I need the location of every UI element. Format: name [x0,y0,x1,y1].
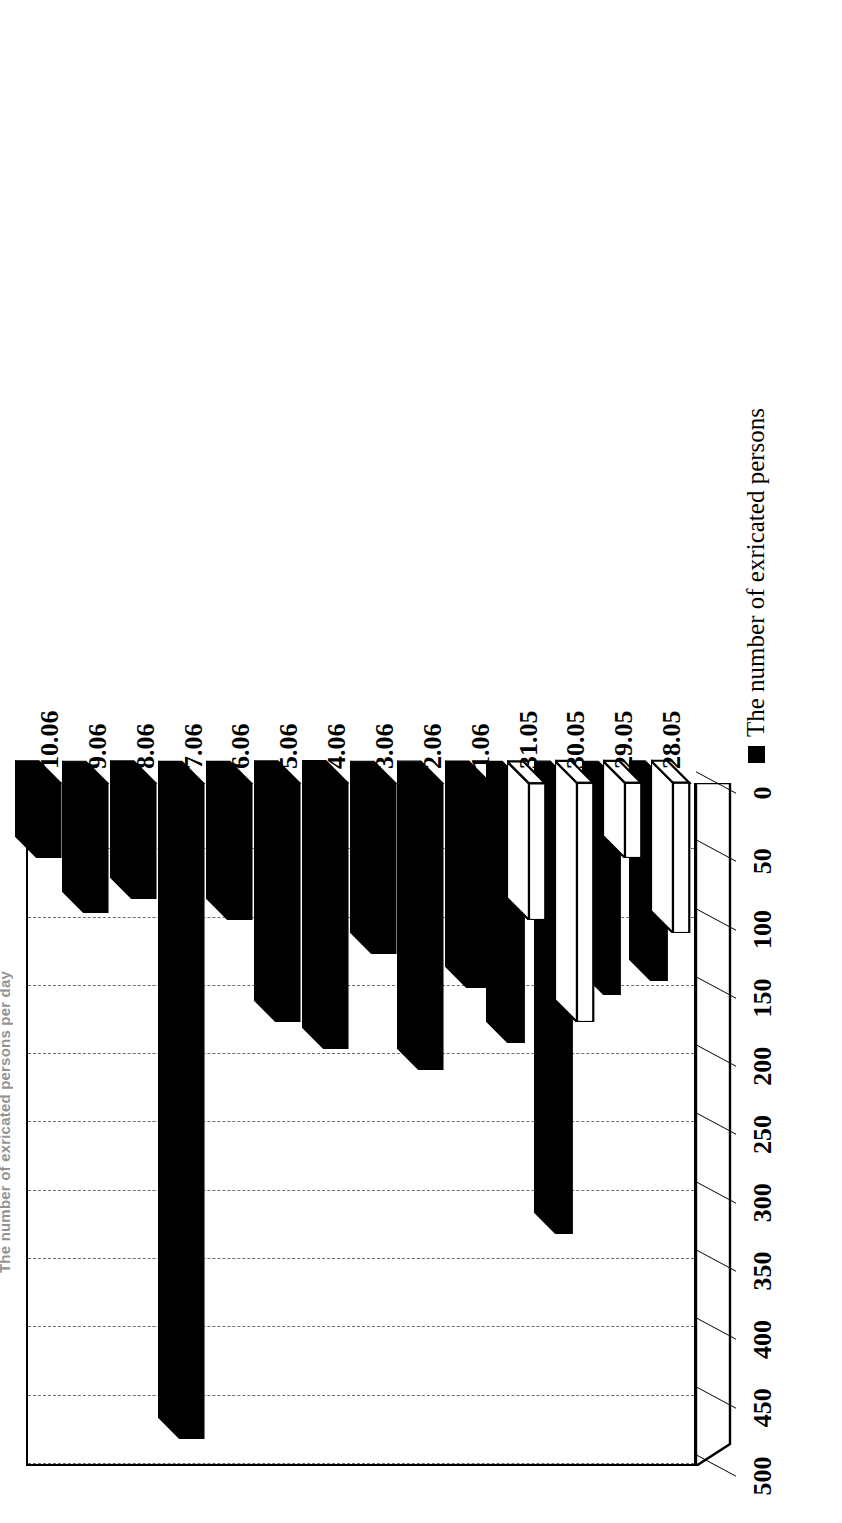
bar-primary-3.06 [372,783,396,954]
bar-shape-secondary-30.05 [555,757,597,1022]
bar-primary-9.06 [84,783,108,913]
category-axis-tick [313,771,314,783]
value-axis-label: 250 [748,1115,778,1154]
bar-secondary-30.05 [577,783,593,1022]
category-axis-tick [409,771,410,783]
bar-shape-primary-4.06 [302,757,352,1049]
category-axis-tick [170,771,171,783]
category-axis-label: 4.06 [322,724,352,770]
value-axis-label: 200 [748,1047,778,1086]
category-axis-label: 28.05 [657,711,687,770]
value-axis-label: 100 [748,910,778,949]
value-axis-label: 300 [748,1183,778,1222]
category-axis-tick [600,771,601,783]
category-axis-tick [26,771,27,783]
bar-secondary-31.05 [529,783,545,920]
value-axis-label: 350 [748,1252,778,1291]
category-axis: 28.0529.0530.0531.051.062.063.064.065.06… [26,683,696,783]
category-axis-tick [361,771,362,783]
category-axis-label: 1.06 [466,724,496,770]
chart-legend: The number of exricated persons [742,408,770,763]
bar-shape-primary-2.06 [397,757,447,1070]
bar-shape-primary-3.06 [350,757,400,954]
bar-shape-primary-5.06 [254,757,304,1022]
category-axis-label: 8.06 [131,724,161,770]
category-axis-label: 3.06 [370,724,400,770]
category-axis-label: 2.06 [418,724,448,770]
value-axis-label: 150 [748,978,778,1017]
legend-label: The number of exricated persons [742,408,770,737]
category-axis-tick [122,771,123,783]
value-axis-label: 400 [748,1320,778,1359]
bar-chart-figure: The number of exricated persons per day … [0,0,842,1523]
bar-shape-primary-1.06 [445,757,495,988]
category-axis-tick [552,771,553,783]
bar-primary-5.06 [276,783,300,1022]
bar-secondary-28.05 [673,783,689,933]
category-axis-label: 31.05 [514,711,544,770]
chart-title: The number of exricated persons per day [0,971,13,1273]
bar-shape-secondary-28.05 [651,757,693,933]
bar-primary-2.06 [419,783,443,1070]
bars-container [26,783,696,1466]
category-axis-label: 10.06 [35,711,65,770]
chart-page: The number of exricated persons per day … [0,0,842,1523]
value-axis-label: 500 [748,1457,778,1496]
value-axis-label: 50 [748,848,778,874]
category-axis-label: 6.06 [226,724,256,770]
category-axis-tick [457,771,458,783]
category-axis-tick [217,771,218,783]
bar-secondary-29.05 [625,783,641,858]
category-axis-label: 9.06 [83,724,113,770]
bar-primary-7.06 [180,783,204,1439]
category-axis-tick [648,771,649,783]
bar-primary-10.06 [37,783,61,858]
legend-black-square-icon [748,746,765,763]
category-axis-tick [265,771,266,783]
value-axis-label: 450 [748,1388,778,1427]
category-axis-tick [74,771,75,783]
category-axis-tick [505,771,506,783]
category-axis-label: 7.06 [179,724,209,770]
bar-shape-primary-7.06 [158,757,208,1439]
category-axis-label: 29.05 [609,711,639,770]
bar-primary-1.06 [467,783,491,988]
value-axis-label: 0 [748,787,778,800]
bar-primary-8.06 [132,783,156,899]
bar-primary-6.06 [228,783,252,920]
category-axis-label: 5.06 [274,724,304,770]
category-axis-label: 30.05 [561,711,591,770]
bar-primary-4.06 [324,783,348,1049]
